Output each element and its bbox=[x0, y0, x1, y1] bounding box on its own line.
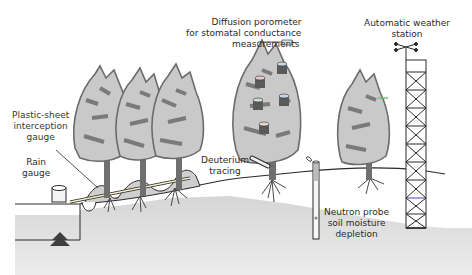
plastic-sheet-label: Plastic-sheet interception gauge bbox=[12, 110, 69, 143]
weather-station-label-line-2: station bbox=[364, 29, 450, 40]
deuterium-label-line-2: tracing bbox=[201, 166, 249, 177]
porometer-cup-icon bbox=[259, 122, 269, 134]
diagram-canvas: Diffusion porometer for stomatal conduct… bbox=[0, 0, 472, 275]
deuterium-label-line-1: Deuterium bbox=[201, 155, 249, 166]
rain-gauge-label-line-1: Rain bbox=[22, 157, 50, 168]
tree-icon-left-3 bbox=[152, 64, 204, 190]
neutron-probe-label-line-1: Neutron probe bbox=[324, 207, 389, 218]
porometer-cup-icon bbox=[277, 62, 287, 74]
rain-gauge-label-line-2: gauge bbox=[22, 168, 50, 179]
plastic-sheet-label-line-1: Plastic-sheet bbox=[12, 110, 69, 121]
weather-station-label-line-1: Automatic weather bbox=[364, 18, 450, 29]
porometer-cup-icon bbox=[255, 76, 265, 88]
deuterium-label: Deuterium tracing bbox=[201, 155, 249, 177]
weather-station-tower-icon bbox=[406, 48, 426, 228]
tree-icon-right bbox=[338, 70, 390, 180]
rain-gauge-icon bbox=[52, 186, 66, 203]
porometer-label-line-1: Diffusion porometer bbox=[186, 17, 301, 28]
neutron-probe-label-line-2: soil moisture bbox=[324, 218, 389, 229]
porometer-cup-icon bbox=[279, 94, 289, 106]
ground bbox=[15, 168, 472, 275]
plastic-sheet-label-line-2: interception bbox=[12, 121, 69, 132]
weather-station-label: Automatic weather station bbox=[364, 18, 450, 40]
neutron-probe-label: Neutron probe soil moisture depletion bbox=[324, 207, 389, 240]
plastic-sheet-label-line-3: gauge bbox=[12, 132, 69, 143]
porometer-label-line-2: for stomatal conductance bbox=[186, 28, 301, 39]
porometer-label: Diffusion porometer for stomatal conduct… bbox=[186, 17, 301, 50]
porometer-label-line-3: measurements bbox=[186, 39, 301, 50]
rain-gauge-label: Rain gauge bbox=[22, 157, 50, 179]
neutron-probe-label-line-3: depletion bbox=[324, 229, 389, 240]
porometer-cup-icon bbox=[253, 98, 263, 110]
